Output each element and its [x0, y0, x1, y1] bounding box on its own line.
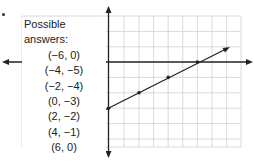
answer-option: (6, 0) [22, 140, 106, 155]
answer-option: (−6, 0) [22, 48, 106, 63]
point-4-neg1 [166, 76, 170, 80]
point-0-neg3 [107, 106, 111, 110]
answer-option: (4, −1) [22, 125, 106, 140]
point-2-neg2 [137, 91, 141, 95]
answer-option: (2, −2) [22, 109, 106, 124]
answer-option: (0, −3) [22, 94, 106, 109]
possible-answers-panel: Possible answers: (−6, 0) (−4, −5) (−2, … [22, 17, 106, 156]
x-axis-right-arrow-icon [246, 59, 253, 65]
y-axis-up-arrow-icon [106, 6, 112, 13]
y-axis-down-arrow-icon [106, 151, 112, 158]
graphed-line [85, 47, 230, 121]
answer-option: (−4, −5) [22, 63, 106, 78]
point-6-0 [196, 60, 200, 64]
graph-figure: Possible answers: (−6, 0) (−4, −5) (−2, … [0, 0, 255, 164]
panel-title: Possible answers: [22, 17, 106, 48]
x-axis-left-arrow-icon [2, 59, 9, 65]
answer-option: (−2, −4) [22, 79, 106, 94]
y-axis [106, 6, 112, 158]
